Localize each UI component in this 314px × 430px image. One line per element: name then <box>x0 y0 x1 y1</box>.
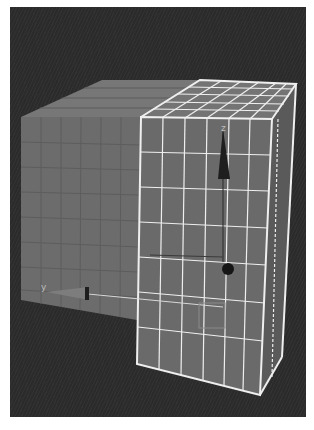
y-axis-arrow-base <box>85 287 89 300</box>
scene-canvas[interactable] <box>10 7 306 417</box>
z-axis-label: z <box>221 123 226 133</box>
pivot-point-icon[interactable] <box>222 263 234 275</box>
3d-viewport[interactable]: z y <box>10 7 306 417</box>
y-axis-label: y <box>41 282 46 292</box>
